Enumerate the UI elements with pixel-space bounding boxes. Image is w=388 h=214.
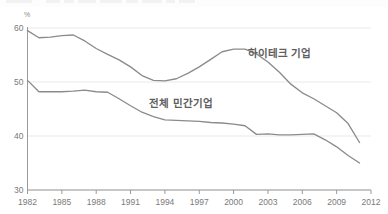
series-line-2 (28, 80, 360, 163)
x-tick-label-1994: 1994 (155, 197, 174, 207)
x-tick-label-1988: 1988 (87, 197, 106, 207)
line-chart-svg: 30405060 1982198519881991199419972000200… (0, 0, 388, 214)
x-tick-label-1982: 1982 (18, 197, 37, 207)
axes-group (28, 27, 372, 194)
y-axis-tick-labels: 30405060 (14, 23, 24, 195)
y-tick-label-30: 30 (14, 185, 24, 195)
x-tick-label-1985: 1985 (52, 197, 71, 207)
x-tick-label-2000: 2000 (224, 197, 243, 207)
y-tick-label-50: 50 (14, 77, 24, 87)
x-tick-label-1991: 1991 (121, 197, 140, 207)
x-tick-label-2006: 2006 (293, 197, 312, 207)
x-tick-label-2009: 2009 (327, 197, 346, 207)
chart-container: 30405060 1982198519881991199419972000200… (0, 0, 388, 214)
y-tick-label-40: 40 (14, 131, 24, 141)
series-label-2: 전체 민간기업 (149, 97, 213, 109)
x-tick-label-2003: 2003 (258, 197, 277, 207)
x-tick-label-1997: 1997 (190, 197, 209, 207)
series-label-1: 하이테크 기업 (248, 47, 312, 59)
x-tick-label-2012: 2012 (362, 197, 381, 207)
x-axis-tick-labels: 1982198519881991199419972000200320062009… (18, 197, 381, 207)
series-annotations-group: 하이테크 기업전체 민간기업 (149, 47, 311, 109)
y-axis-unit-label: % (24, 11, 30, 18)
y-tick-label-60: 60 (14, 23, 24, 33)
